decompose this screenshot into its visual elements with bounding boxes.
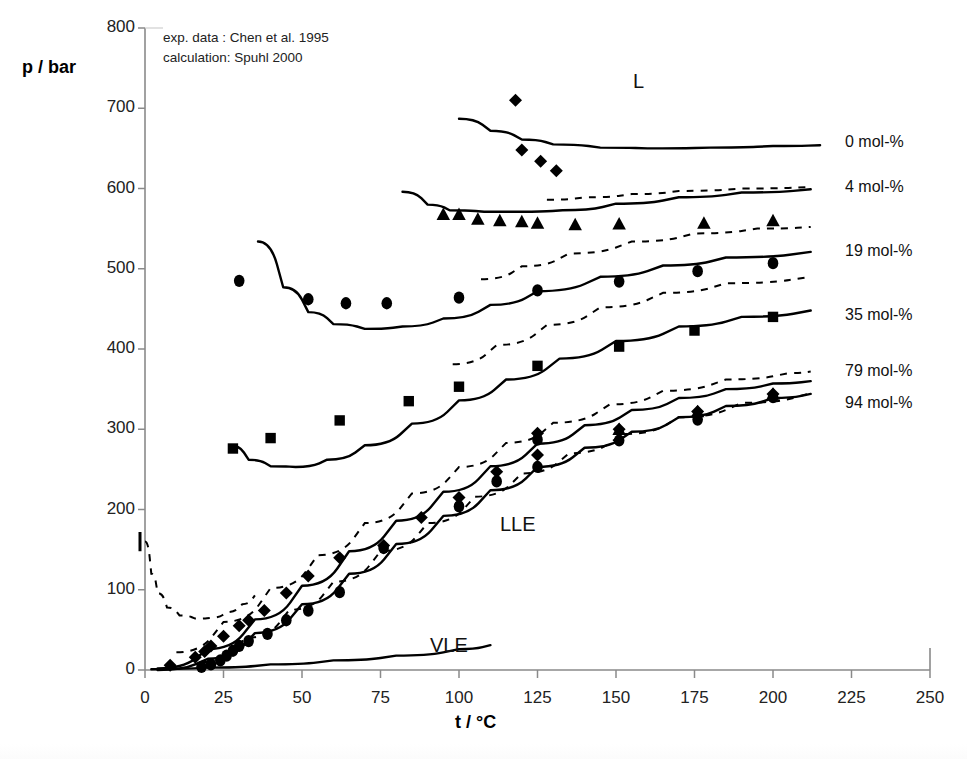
- data-point-triangle: [697, 216, 711, 229]
- data-point-circle: [234, 640, 245, 652]
- series-label-94-mol-: 94 mol-%: [845, 394, 913, 412]
- series-group: [459, 94, 820, 178]
- x-axis-tick-label: 125: [513, 688, 563, 708]
- x-axis-tick-label: 75: [356, 688, 406, 708]
- data-point-square: [454, 382, 464, 392]
- y-axis-tick-label: 300: [85, 418, 135, 438]
- y-axis-tick-label: 800: [85, 17, 135, 37]
- region-label-L: L: [633, 70, 644, 93]
- calculated-solid-curve: [459, 119, 820, 149]
- x-axis-tick-label: 25: [199, 688, 249, 708]
- data-point-triangle: [766, 214, 780, 227]
- data-point-circle: [532, 284, 543, 296]
- region-label-LLE: LLE: [500, 513, 536, 536]
- data-point-circle: [454, 292, 465, 304]
- data-point-triangle: [493, 214, 507, 227]
- data-point-diamond: [258, 604, 271, 617]
- y-axis-tick-label: 400: [85, 338, 135, 358]
- x-axis-tick-label: 50: [277, 688, 327, 708]
- x-axis-tick-label: 200: [748, 688, 798, 708]
- page-edge-shadow: [0, 744, 967, 759]
- calculation-note: calculation: Spuhl 2000: [163, 50, 303, 65]
- data-point-circle: [303, 293, 314, 305]
- data-point-circle: [341, 297, 352, 309]
- x-axis-tick-label: 150: [591, 688, 641, 708]
- y-axis-title: p / bar: [22, 57, 76, 78]
- data-point-triangle: [531, 216, 545, 229]
- data-point-circle: [532, 434, 543, 446]
- calculated-dashed-curve: [176, 372, 810, 653]
- series-label-35-mol-: 35 mol-%: [845, 306, 913, 324]
- data-point-circle: [262, 628, 273, 640]
- data-point-diamond: [280, 586, 293, 599]
- series-label-4-mol-: 4 mol-%: [845, 178, 904, 196]
- data-point-triangle: [471, 212, 485, 225]
- series-group: [228, 277, 811, 467]
- y-axis-tick-label: 500: [85, 258, 135, 278]
- data-point-square: [334, 415, 344, 425]
- series-label-79-mol-: 79 mol-%: [845, 362, 913, 380]
- data-point-diamond: [515, 143, 528, 156]
- x-axis-tick-label: 250: [905, 688, 955, 708]
- data-point-diamond: [302, 570, 315, 583]
- series-label-0-mol-: 0 mol-%: [845, 133, 904, 151]
- data-point-triangle: [612, 217, 626, 230]
- x-axis-tick-label: 225: [827, 688, 877, 708]
- data-point-circle: [491, 475, 502, 487]
- series-group: [158, 372, 811, 672]
- data-point-square: [614, 341, 624, 351]
- calculated-solid-curve: [258, 242, 811, 329]
- data-point-triangle: [515, 215, 529, 228]
- x-axis-title: t / °C: [455, 712, 496, 733]
- data-point-diamond: [217, 630, 230, 643]
- y-axis-tick-label: 700: [85, 97, 135, 117]
- data-point-diamond: [550, 164, 563, 177]
- series-label-19-mol-: 19 mol-%: [845, 242, 913, 260]
- data-point-circle: [281, 614, 292, 626]
- calculated-solid-curve: [403, 189, 811, 212]
- data-point-square: [532, 361, 542, 371]
- data-point-square: [689, 325, 699, 335]
- x-axis-tick-label: 175: [670, 688, 720, 708]
- calculated-solid-curve: [158, 394, 811, 670]
- data-point-circle: [234, 275, 245, 287]
- data-point-circle: [692, 265, 703, 277]
- data-point-square: [404, 396, 414, 406]
- series-group: [145, 542, 255, 619]
- data-point-circle: [378, 542, 389, 554]
- x-axis-tick-label: 0: [120, 688, 170, 708]
- y-axis-tick-label: 600: [85, 178, 135, 198]
- region-label-VLE: VLE: [430, 634, 468, 657]
- y-axis-tick-label: 0: [85, 659, 135, 679]
- data-point-circle: [243, 635, 254, 647]
- series-group: [158, 387, 811, 673]
- data-point-triangle: [568, 218, 582, 231]
- data-point-diamond: [531, 448, 544, 461]
- data-point-square: [228, 443, 238, 453]
- data-point-circle: [614, 434, 625, 446]
- exp-data-note: exp. data : Chen et al. 1995: [163, 30, 329, 45]
- data-point-square: [768, 312, 778, 322]
- data-point-circle: [303, 604, 314, 616]
- data-point-circle: [334, 586, 345, 598]
- calculated-solid-curve: [158, 381, 811, 668]
- figure-root: 0100200300400500600700800025507510012515…: [0, 0, 967, 759]
- data-point-diamond: [509, 94, 522, 107]
- data-point-square: [265, 433, 275, 443]
- chart-canvas: [0, 0, 967, 759]
- calculated-dashed-curve: [453, 277, 811, 364]
- data-point-circle: [532, 461, 543, 473]
- data-point-circle: [768, 257, 779, 269]
- data-point-circle: [381, 297, 392, 309]
- x-axis-tick-label: 100: [434, 688, 484, 708]
- y-axis-tick-label: 100: [85, 579, 135, 599]
- series-group: [403, 187, 811, 230]
- data-point-circle: [614, 275, 625, 287]
- y-axis-tick-label: 200: [85, 499, 135, 519]
- calculated-dashed-curve: [145, 542, 255, 619]
- data-point-circle: [454, 500, 465, 512]
- data-point-diamond: [534, 155, 547, 168]
- series-group: [234, 227, 811, 329]
